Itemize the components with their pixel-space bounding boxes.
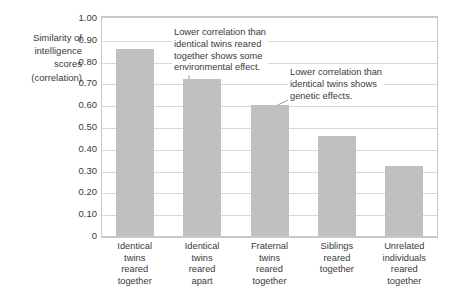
annotation-line: Lower correlation than <box>290 67 382 79</box>
gridline <box>102 106 437 107</box>
annotation-genetic-effects: Lower correlation than identical twins s… <box>288 66 384 103</box>
x-axis-category-label: Identicaltwinsrearedapart <box>169 241 236 287</box>
annotation-line: identical twins reared <box>174 39 266 51</box>
x-axis-category-label-line: Identical <box>169 241 236 253</box>
gridline <box>102 215 437 216</box>
x-axis-category-label-line: together <box>303 264 370 276</box>
gridline <box>102 193 437 194</box>
x-axis-category-label: Siblingsrearedtogether <box>303 241 370 276</box>
x-axis-category-labels: IdenticaltwinsrearedtogetherIdenticaltwi… <box>101 241 438 299</box>
x-axis-category-label-line: twins <box>236 253 303 265</box>
gridline <box>102 63 437 64</box>
annotation-line: genetic effects. <box>290 91 382 103</box>
gridline <box>102 41 437 42</box>
x-axis-category-label-line: reared <box>101 264 168 276</box>
y-axis-tick-label: 1.00 <box>57 13 97 23</box>
annotation-line: identical twins shows <box>290 79 382 91</box>
gridline <box>102 172 437 173</box>
annotation-line: Lower correlation than <box>174 27 266 39</box>
y-axis-tick-label: 0.20 <box>57 187 97 197</box>
x-axis-category-label-line: reared <box>303 253 370 265</box>
x-axis-category-label-line: reared <box>236 264 303 276</box>
y-axis-tick-label: 0.60 <box>57 100 97 110</box>
y-axis-tick-label: 0.40 <box>57 144 97 154</box>
y-axis-tick-label: 0.50 <box>57 122 97 132</box>
gridline <box>102 150 437 151</box>
x-axis-category-label: Unrelatedindividualsrearedtogether <box>371 241 438 287</box>
y-axis-tick-label: 0.90 <box>57 35 97 45</box>
y-axis-tick-label: 0.70 <box>57 78 97 88</box>
x-axis-category-label-line: together <box>236 276 303 288</box>
x-axis-category-label-line: Fraternal <box>236 241 303 253</box>
gridline <box>102 84 437 85</box>
x-axis-category-label: Fraternaltwinsrearedtogether <box>236 241 303 287</box>
gridline <box>102 128 437 129</box>
x-axis-category-label-line: twins <box>169 253 236 265</box>
x-axis-category-label-line: apart <box>169 276 236 288</box>
x-axis-category-label-line: Unrelated <box>371 241 438 253</box>
annotation-line: together shows some <box>174 51 266 63</box>
y-axis-tick-label: 0 <box>57 231 97 241</box>
y-axis-tick-label: 0.80 <box>57 57 97 67</box>
y-axis-tick-label: 0.30 <box>57 166 97 176</box>
x-axis-category-label-line: twins <box>101 253 168 265</box>
x-axis-category-label-line: together <box>101 276 168 288</box>
y-axis-tick-label: 0.10 <box>57 209 97 219</box>
x-axis-category-label-line: reared <box>371 264 438 276</box>
x-axis-category-label-line: individuals <box>371 253 438 265</box>
plot-area <box>101 16 438 238</box>
annotation-line: environmental effect. <box>174 62 266 74</box>
x-axis-category-label-line: reared <box>169 264 236 276</box>
x-axis-category-label-line: Identical <box>101 241 168 253</box>
x-axis-category-label-line: Siblings <box>303 241 370 253</box>
annotation-environmental-effect: Lower correlation than identical twins r… <box>172 26 268 75</box>
x-axis-category-label: Identicaltwinsrearedtogether <box>101 241 168 287</box>
x-axis-category-label-line: together <box>371 276 438 288</box>
y-axis-tick-labels: 1.000.900.800.700.600.500.400.300.200.10… <box>56 16 101 238</box>
